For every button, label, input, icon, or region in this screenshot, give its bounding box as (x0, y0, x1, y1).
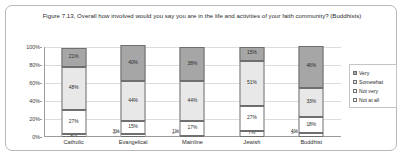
y-tick-label: 20% (29, 116, 40, 122)
bar-segment[interactable]: 17% (180, 121, 205, 136)
x-tick-label: Mainline (163, 139, 222, 145)
x-axis: CatholicEvangelicalMainlineJewishBuddhis… (44, 139, 341, 151)
bar-segment-label: 21% (69, 55, 79, 60)
x-tick-label: Evangelical (103, 139, 162, 145)
y-tick-mark (40, 83, 42, 84)
bar-segment[interactable]: 44% (121, 81, 146, 121)
bar-group[interactable]: 17%44%38%1% (163, 47, 222, 137)
bar-segment-label: 46% (306, 64, 316, 69)
y-tick-mark (40, 101, 42, 102)
chart-panel: Figure 7.13, Overall how involved would … (5, 5, 397, 151)
y-tick-mark (40, 137, 42, 138)
bar-segment[interactable] (121, 134, 146, 137)
legend-swatch-icon (353, 71, 357, 75)
bar-group[interactable]: 15%44%40%3% (103, 47, 162, 137)
legend-label: Not very (359, 88, 378, 94)
bar-group[interactable]: 7%27%51%15% (222, 47, 281, 137)
legend-item[interactable]: Somewhat (353, 77, 394, 86)
bar-segment-label: 51% (247, 81, 257, 86)
bar-segment-label: 7% (248, 131, 255, 136)
bar-segment[interactable]: 21% (61, 48, 86, 67)
legend-item[interactable]: Not very (353, 86, 394, 95)
bar-segment-label: 48% (69, 86, 79, 91)
bar-segment[interactable]: 15% (239, 47, 264, 61)
bar-segment-label: 15% (247, 51, 257, 56)
y-tick-mark (40, 119, 42, 120)
x-tick-label: Buddhist (282, 139, 341, 145)
y-tick-label: 40% (29, 98, 40, 104)
bar-group[interactable]: 18%33%46%4% (282, 47, 341, 137)
x-tick-label: Catholic (44, 139, 103, 145)
y-tick-mark (40, 65, 42, 66)
bar-segment[interactable] (299, 133, 324, 137)
bar-stack[interactable]: 7%27%51%15% (239, 47, 264, 137)
bar-segment[interactable]: 38% (180, 47, 205, 81)
bar-segment[interactable]: 15% (121, 121, 146, 135)
legend-label: Somewhat (359, 79, 383, 85)
bar-segment-label: 44% (128, 99, 138, 104)
bar-stack[interactable]: 18%33%46%4% (299, 47, 324, 137)
bar-segment[interactable]: 51% (239, 61, 264, 107)
bar-segment[interactable]: 48% (61, 67, 86, 110)
bar-segment-label: 33% (306, 100, 316, 105)
bar-stack[interactable]: 17%44%38%1% (180, 47, 205, 137)
y-tick-label: 0% (32, 134, 40, 140)
legend-swatch-icon (353, 98, 357, 102)
y-tick-label: 60% (29, 80, 40, 86)
bar-segment[interactable]: 3% (61, 134, 86, 137)
bar-segment-label: 15% (128, 125, 138, 130)
bar-segment-label: 44% (188, 99, 198, 104)
bar-segment-label: 38% (188, 62, 198, 67)
bar-segment[interactable]: 27% (239, 106, 264, 130)
legend-label: Very (359, 70, 369, 76)
legend-swatch-icon (353, 80, 357, 84)
bar-segment-label: 40% (128, 61, 138, 66)
bar-segment[interactable]: 27% (61, 110, 86, 134)
y-tick-label: 80% (29, 62, 40, 68)
bar-group[interactable]: 3%27%48%21% (44, 47, 103, 137)
bar-segment-label: 18% (306, 123, 316, 128)
bar-segment-label: 3% (70, 134, 77, 137)
bar-segment-label: 27% (69, 120, 79, 125)
x-tick-label: Jewish (222, 139, 281, 145)
y-axis: 100%80%60%40%20%0% (14, 47, 42, 137)
legend-item[interactable]: Not at all (353, 95, 394, 104)
legend-label: Not at all (359, 97, 379, 103)
plot-area: 3%27%48%21%15%44%40%3%17%44%38%1%7%27%51… (44, 47, 341, 137)
legend-item[interactable]: Very (353, 68, 394, 77)
y-tick-label: 100% (26, 44, 40, 50)
bar-segment[interactable]: 40% (121, 45, 146, 81)
legend-swatch-icon (353, 89, 357, 93)
bar-segment[interactable]: 18% (299, 117, 324, 133)
bar-stack[interactable]: 3%27%48%21% (61, 47, 86, 137)
bar-segment[interactable]: 33% (299, 88, 324, 118)
bar-segment-label: 17% (188, 126, 198, 131)
bar-segment[interactable]: 7% (239, 131, 264, 137)
chart-legend: VerySomewhatNot veryNot at all (349, 64, 397, 108)
chart-title: Figure 7.13, Overall how involved would … (34, 11, 370, 20)
bar-segment[interactable]: 44% (180, 81, 205, 121)
bar-stack[interactable]: 15%44%40%3% (121, 47, 146, 137)
bars-layer: 3%27%48%21%15%44%40%3%17%44%38%1%7%27%51… (44, 47, 341, 137)
bar-segment[interactable]: 46% (299, 46, 324, 87)
y-tick-mark (40, 47, 42, 48)
bar-segment-label: 27% (247, 116, 257, 121)
